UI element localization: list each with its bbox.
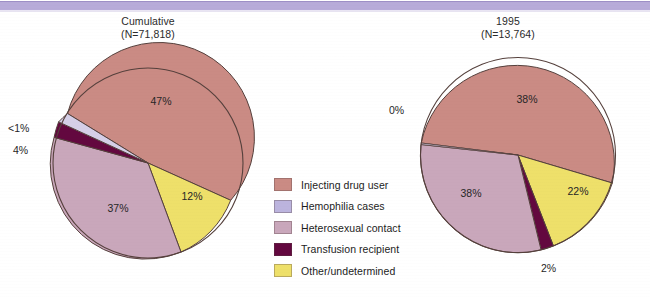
right-label-other-undetermined: 22% [567,185,588,197]
legend-swatch-injecting-drug-user [274,178,292,191]
legend-item-heterosexual-contact[interactable]: Heterosexual contact [274,217,459,239]
legend-item-transfusion-recipient[interactable]: Transfusion recipient [274,239,459,261]
legend-label-injecting-drug-user: Injecting drug user [301,179,388,191]
legend-swatch-other-undetermined [274,264,292,277]
legend-label-hemophilia-cases: Hemophilia cases [301,200,385,212]
legend-swatch-heterosexual-contact [274,221,292,234]
right-label-transfusion-recipient: 2% [541,262,556,274]
legend-swatch-hemophilia-cases [274,200,292,213]
legend-item-other-undetermined[interactable]: Other/undetermined [274,260,459,282]
right-label-injecting-drug-user: 38% [516,93,537,105]
pie-chart-figure: Cumulative (N=71,818) 1995 (N=13,764) 47… [0,0,650,297]
legend-swatch-transfusion-recipient [274,243,292,256]
right-label-heterosexual-contact: 38% [460,187,481,199]
legend: Injecting drug user Hemophilia cases Het… [274,174,459,282]
right-label-hemophilia-cases: 0% [389,104,404,116]
legend-item-injecting-drug-user[interactable]: Injecting drug user [274,174,459,196]
legend-label-other-undetermined: Other/undetermined [301,265,395,277]
legend-item-hemophilia-cases[interactable]: Hemophilia cases [274,196,459,218]
legend-label-heterosexual-contact: Heterosexual contact [301,222,401,234]
legend-label-transfusion-recipient: Transfusion recipient [301,243,399,255]
